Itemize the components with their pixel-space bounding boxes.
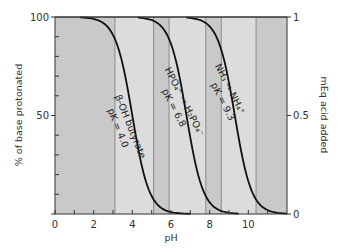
band-0 [55,17,115,214]
x-tick-label: 2 [90,219,96,230]
band-2 [154,17,169,214]
y-axis-title-right: mEq acid added [319,77,330,154]
y-right-tick-label: 0.5 [293,110,309,121]
x-tick-label: 4 [129,219,135,230]
x-tick-label: 0 [52,219,58,230]
titration-chart: 02468105010000.51 β-OH butyrate pK = 4.0… [0,0,339,251]
band-4 [206,17,221,214]
y-right-tick-label: 0 [293,209,299,220]
y-right-tick-label: 1 [293,12,299,23]
x-tick-label: 10 [242,219,255,230]
y-axis-title-left: % of base protonated [13,64,24,166]
x-tick-label: 8 [206,219,212,230]
y-tick-label: 50 [36,110,49,121]
x-axis-title: pH [164,232,177,243]
band-6 [256,17,287,214]
y-tick-label: 100 [30,12,49,23]
x-tick-label: 6 [168,219,174,230]
